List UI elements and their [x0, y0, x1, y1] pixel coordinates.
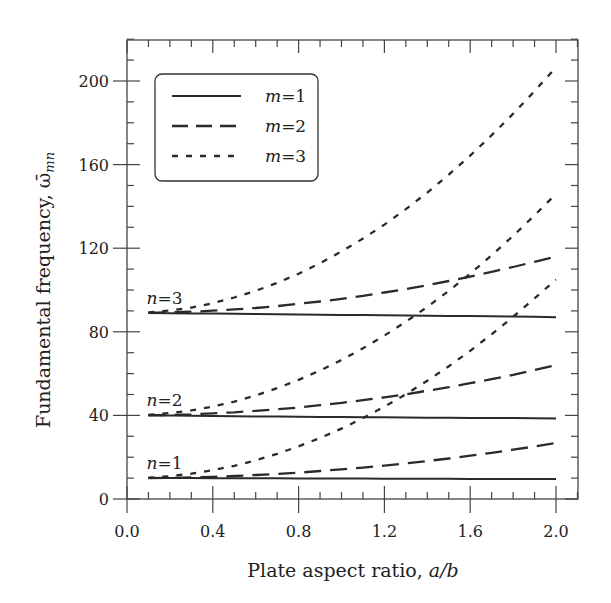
y-tick-label: 160 [78, 156, 109, 175]
y-tick-label: 120 [78, 239, 109, 258]
legend: m=1m=2m=3 [155, 74, 318, 181]
annotation-n3: n=3 [146, 288, 182, 308]
y-tick-label: 200 [78, 72, 109, 91]
series-n1-m2 [148, 443, 556, 478]
x-tick-label: 0.4 [200, 522, 225, 541]
x-tick-label: 2.0 [543, 522, 568, 541]
annotation-n2: n=2 [146, 390, 182, 410]
legend-label-m2: m=2 [265, 116, 306, 136]
y-tick-label: 40 [89, 406, 109, 425]
x-tick-label: 1.2 [372, 522, 397, 541]
legend-label-m3: m=3 [265, 146, 306, 166]
curve-annotations: n=1n=2n=3 [146, 288, 182, 473]
series-n3-m1 [148, 313, 556, 317]
x-axis-title: Plate aspect ratio, a/b [247, 559, 458, 581]
x-tick-label: 1.6 [457, 522, 482, 541]
series-n2-m1 [148, 415, 556, 418]
y-axis-title: Fundamental frequency, ω̄mn [32, 152, 57, 428]
series-n1-m1 [148, 478, 556, 479]
x-tick-label: 0.0 [114, 522, 139, 541]
y-tick-label: 0 [99, 490, 109, 509]
legend-label-m1: m=1 [265, 86, 306, 106]
y-tick-label: 80 [89, 323, 109, 342]
x-tick-label: 0.8 [286, 522, 311, 541]
annotation-n1: n=1 [146, 453, 182, 473]
chart-figure: 0.00.40.81.21.62.004080120160200 n=1n=2n… [0, 0, 611, 603]
